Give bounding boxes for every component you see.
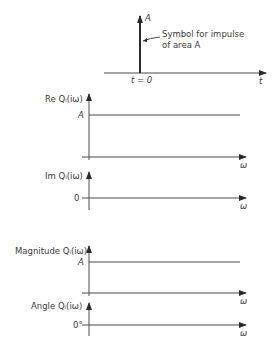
impulse-plot: A Symbol for impulse of area A t = 0 t xyxy=(104,13,266,86)
annotation-line-1: Symbol for impulse xyxy=(162,29,244,39)
imag-part-plot: Im Qᵢ(iω) 0 ω xyxy=(45,171,247,211)
time-axis-label: t xyxy=(259,76,263,86)
magnitude-x-label: ω xyxy=(240,296,247,306)
angle-plot: Angle Qᵢ(iω) 0° ω xyxy=(31,301,247,338)
imag-level-label: 0 xyxy=(74,193,79,203)
imag-x-label: ω xyxy=(240,201,247,211)
imag-y-label: Im Qᵢ(iω) xyxy=(45,171,83,181)
impulse-spectrum-diagram: A Symbol for impulse of area A t = 0 t R… xyxy=(0,0,277,356)
real-y-label: Re Qᵢ(iω) xyxy=(45,94,83,104)
magnitude-plot: Magnitude Qᵢ(iω) A ω xyxy=(15,246,247,306)
magnitude-y-label: Magnitude Qᵢ(iω) xyxy=(15,246,87,256)
real-part-plot: Re Qᵢ(iω) A ω xyxy=(45,94,247,170)
real-x-label: ω xyxy=(240,160,247,170)
impulse-amplitude-label: A xyxy=(144,13,151,23)
angle-x-label: ω xyxy=(240,328,247,338)
origin-label: t = 0 xyxy=(131,75,152,85)
annotation-line-2: of area A xyxy=(162,40,201,50)
angle-y-label: Angle Qᵢ(iω) xyxy=(31,301,82,311)
angle-level-label: 0° xyxy=(73,320,83,330)
real-level-label: A xyxy=(77,110,84,120)
magnitude-level-label: A xyxy=(77,257,84,267)
